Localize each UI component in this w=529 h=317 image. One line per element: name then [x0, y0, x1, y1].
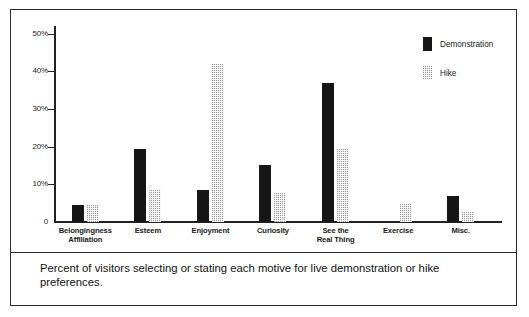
bar-demo — [259, 165, 271, 222]
legend-swatch — [423, 66, 432, 80]
bar-group-bars — [54, 26, 117, 222]
legend-item: Hike — [423, 66, 518, 80]
legend-label: Hike — [440, 69, 456, 78]
bar-group-bars — [304, 26, 367, 222]
y-tick-label-text: 40% — [14, 67, 48, 75]
category-label-line: Misc. — [429, 226, 492, 235]
bar-demo — [72, 205, 84, 222]
bar-hike — [274, 193, 286, 222]
bar-group — [54, 26, 117, 222]
bar-demo — [447, 196, 459, 222]
bar-group-bars — [179, 26, 242, 222]
y-tick-label: 40% — [8, 67, 48, 75]
figure-caption: Percent of visitors selecting or stating… — [40, 261, 490, 289]
category-label: BelongingnessAffiliation — [54, 226, 117, 244]
bar-hike — [149, 190, 161, 222]
category-label: Exercise — [367, 226, 430, 235]
y-tick-label-text: 30% — [14, 105, 48, 113]
y-tick-label: 10% — [8, 180, 48, 188]
bar-group — [304, 26, 367, 222]
bar-hike — [87, 205, 99, 222]
bar-demo — [134, 149, 146, 223]
category-label-line: Curiosity — [242, 226, 305, 235]
category-label-line: Affiliation — [54, 235, 117, 244]
category-label-line: Exercise — [367, 226, 430, 235]
figure-container: 010%20%30%40%50% BelongingnessAffiliatio… — [0, 0, 529, 317]
category-label: Esteem — [117, 226, 180, 235]
bar-hike — [337, 149, 349, 222]
category-label-line: See the — [304, 226, 367, 235]
category-label-line: Belongingness — [54, 226, 117, 235]
bar-group — [242, 26, 305, 222]
bar-demo — [197, 190, 209, 222]
category-label: Enjoyment — [179, 226, 242, 235]
bar-group-bars — [367, 26, 430, 222]
y-tick-label-text: 10% — [14, 180, 48, 188]
bar-group — [179, 26, 242, 222]
category-label: Misc. — [429, 226, 492, 235]
bar-hike — [212, 64, 224, 222]
caption-divider — [11, 252, 516, 253]
bar-group-bars — [242, 26, 305, 222]
bar-hike — [462, 212, 474, 222]
bar-group — [117, 26, 180, 222]
category-label-line: Esteem — [117, 226, 180, 235]
chart-legend: DemonstrationHike — [423, 37, 518, 95]
category-label: See theReal Thing — [304, 226, 367, 244]
y-tick-label-text: 20% — [14, 143, 48, 151]
y-tick-label-text: 50% — [14, 30, 48, 38]
legend-swatch — [423, 37, 432, 51]
bar-demo — [322, 83, 334, 222]
y-tick-label: 0 — [8, 218, 48, 226]
y-tick-label: 30% — [8, 105, 48, 113]
legend-item: Demonstration — [423, 37, 518, 51]
bar-group — [367, 26, 430, 222]
category-label-line: Enjoyment — [179, 226, 242, 235]
category-label-line: Real Thing — [304, 235, 367, 244]
legend-label: Demonstration — [440, 40, 493, 49]
y-tick-label: 20% — [8, 143, 48, 151]
bar-hike — [400, 204, 412, 222]
y-tick-label: 50% — [8, 30, 48, 38]
category-label: Curiosity — [242, 226, 305, 235]
bar-group-bars — [117, 26, 180, 222]
y-tick-label-text: 0 — [14, 218, 48, 226]
